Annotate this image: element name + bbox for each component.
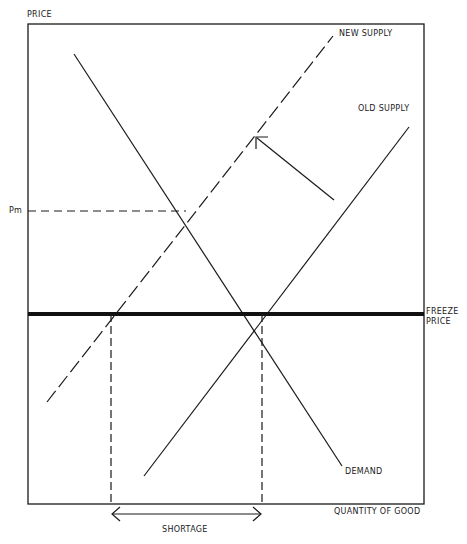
pm-label: Pm (9, 206, 22, 216)
shortage-double-arrow-icon (112, 507, 261, 521)
x-axis-label: QUANTITY OF GOOD (334, 507, 420, 517)
y-axis-label: PRICE (27, 10, 52, 20)
freeze-price-label-line1: FREEZE (426, 307, 459, 317)
new-supply-label: NEW SUPPLY (339, 29, 392, 39)
supply-shift-arrow-icon (256, 137, 334, 200)
plot-frame (28, 24, 424, 504)
old-supply-curve (144, 127, 409, 476)
diagram-canvas (0, 0, 467, 544)
old-supply-label: OLD SUPPLY (358, 104, 409, 114)
freeze-price-label-line2: PRICE (426, 317, 451, 327)
demand-curve (74, 54, 342, 466)
new-supply-curve (47, 36, 333, 402)
demand-label: DEMAND (345, 467, 383, 477)
shortage-label: SHORTAGE (162, 525, 208, 535)
